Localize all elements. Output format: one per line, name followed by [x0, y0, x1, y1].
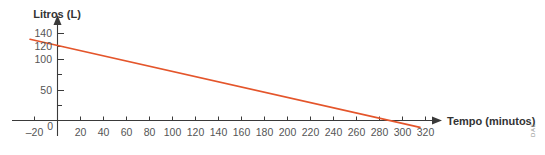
y-axis-ticks — [58, 34, 65, 106]
x-tick-label-100: 100 — [164, 126, 182, 138]
y-tick-label-50: 50 — [40, 84, 52, 96]
x-tick-label-120: 120 — [187, 126, 205, 138]
y-tick-label-120: 120 — [34, 40, 52, 52]
x-tick-label-80: 80 — [144, 126, 156, 138]
x-axis-title: Tempo (minutos) — [447, 115, 536, 127]
dae-watermark: DAE — [530, 123, 536, 137]
x-tick-label-260: 260 — [348, 126, 366, 138]
y-tick-label-100: 100 — [34, 53, 52, 65]
x-tick-label-140: 140 — [210, 126, 228, 138]
origin-tick-label: 0 — [47, 120, 53, 132]
x-tick-label-300: 300 — [394, 126, 412, 138]
x-axis-ticks — [35, 117, 426, 121]
data-line-series-1 — [30, 39, 420, 127]
x-tick-label-280: 280 — [371, 126, 389, 138]
x-tick-label-160: 160 — [233, 126, 251, 138]
chart-canvas: 140 120 100 50 0 –20 20 40 60 80 100 120… — [0, 0, 545, 155]
x-tick-label-180: 180 — [256, 126, 274, 138]
x-tick-label-minus20: –20 — [26, 126, 44, 138]
y-axis-title: Litros (L) — [33, 8, 81, 20]
x-tick-label-60: 60 — [121, 126, 133, 138]
x-tick-label-200: 200 — [279, 126, 297, 138]
x-axis-arrow-icon — [432, 117, 442, 125]
x-tick-label-20: 20 — [75, 126, 87, 138]
y-tick-label-140: 140 — [34, 27, 52, 39]
chart-figure: 140 120 100 50 0 –20 20 40 60 80 100 120… — [0, 0, 545, 155]
x-tick-label-40: 40 — [98, 126, 110, 138]
x-tick-label-320: 320 — [417, 126, 435, 138]
x-tick-label-220: 220 — [302, 126, 320, 138]
x-tick-label-240: 240 — [325, 126, 343, 138]
